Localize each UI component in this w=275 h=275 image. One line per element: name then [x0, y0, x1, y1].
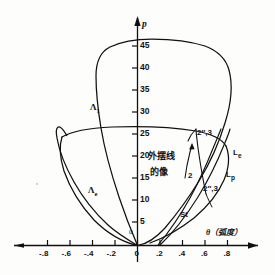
x-tick-label-08: .8: [224, 250, 231, 258]
lambda-0-subscript: e: [94, 190, 97, 197]
curve-lambda-0-left: [60, 137, 137, 246]
annotation-2pp3-top: 2″,3: [197, 129, 212, 137]
y-tick-label-30: 30: [140, 107, 149, 116]
scan-speck: [36, 183, 38, 185]
annotation-2: 2: [188, 172, 192, 180]
lambda-1-subscript: 1: [96, 107, 99, 114]
y-axis-arrow-icon: [134, 16, 140, 26]
x-tick-label-04: .4: [179, 250, 186, 258]
y-tick-label-15: 15: [140, 173, 149, 182]
x-tick-label-neg08: -.8: [39, 250, 48, 258]
curve-lambda-1: [96, 39, 231, 246]
y-tick-label-10: 10: [140, 195, 149, 204]
annotation-cjk-line2: 的像: [150, 168, 168, 177]
y-tick-marks: [132, 46, 138, 222]
x-axis-label: θ（弧度）: [206, 229, 242, 237]
x-tick-label-neg02: -.2: [107, 250, 116, 258]
x-axis-label-text: θ（弧度）: [206, 228, 242, 237]
y-tick-label-40: 40: [140, 63, 149, 72]
x-axis-arrow-icon: [248, 242, 258, 248]
x-tick-label-02: .2: [156, 250, 163, 258]
pointer-arrow-icon: [189, 143, 194, 150]
curve-label-Lp: Lp: [226, 171, 235, 181]
curve-label-lambda-0: Λe: [88, 186, 97, 197]
x-tick-label-06: .6: [201, 250, 208, 258]
x-axis-left-tail-icon: [14, 243, 24, 248]
Lp-subscript: p: [231, 174, 235, 181]
x-tick-label-neg06: -.6: [62, 250, 71, 258]
y-tick-label-35: 35: [140, 85, 149, 94]
y-tick-label-25: 25: [140, 129, 149, 138]
y-tick-label-45: 45: [140, 41, 149, 50]
y-axis-label: p: [142, 20, 147, 30]
origin-label: o: [129, 228, 133, 236]
annotation-cjk-line1: 外摆线: [148, 152, 175, 161]
x-tick-label-0: 0: [135, 250, 139, 258]
annotation-St: St: [180, 211, 188, 219]
y-tick-label-5: 5: [140, 217, 145, 226]
Le-subscript: e: [238, 152, 242, 159]
curve-label-lambda-1: Λ1: [90, 103, 100, 114]
annotation-2pp3-lower: 2″,3: [203, 185, 218, 193]
x-tick-label-neg04: -.4: [84, 250, 93, 258]
figure-canvas: p 45 40 35 30 25 20 15 10 5 o -.8 -.6 -.…: [0, 0, 275, 275]
curve-label-Le: Le: [233, 149, 242, 159]
